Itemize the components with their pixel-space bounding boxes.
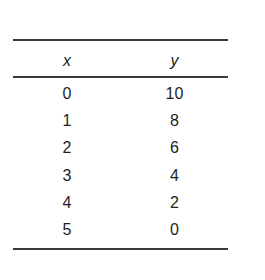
table-row: 5 0	[13, 216, 228, 243]
cell-y: 0	[121, 222, 228, 238]
cell-y: 4	[121, 168, 228, 184]
cell-x: 5	[13, 222, 121, 238]
cell-x: 0	[13, 86, 121, 102]
table-row: 2 6	[13, 135, 228, 162]
cell-x: 1	[13, 113, 121, 129]
cell-x: 4	[13, 195, 121, 211]
table-body: 0 10 1 8 2 6 3 4 4 2 5 0	[13, 80, 228, 246]
column-header-x: x	[13, 53, 121, 69]
cell-y: 6	[121, 140, 228, 156]
cell-y: 10	[121, 86, 228, 102]
cell-y: 8	[121, 113, 228, 129]
table-row: 3 4	[13, 162, 228, 189]
cell-y: 2	[121, 195, 228, 211]
cell-x: 3	[13, 168, 121, 184]
column-header-y: y	[121, 53, 228, 69]
table-row: 0 10	[13, 80, 228, 107]
cell-x: 2	[13, 140, 121, 156]
table-row: 4 2	[13, 189, 228, 216]
data-table-figure: x y 0 10 1 8 2 6 3 4 4 2 5 0	[0, 0, 265, 280]
table-rule-top	[13, 39, 228, 41]
table-rule-middle	[13, 76, 228, 78]
table-rule-bottom	[13, 248, 228, 250]
table-header-row: x y	[13, 47, 228, 74]
table-row: 1 8	[13, 107, 228, 134]
